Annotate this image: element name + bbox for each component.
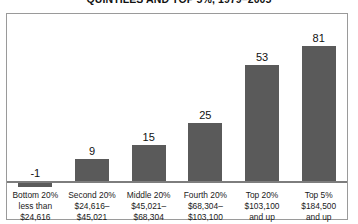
category-label-line2: $24,616– (65, 201, 120, 212)
category-label-line3: $103,100 (178, 212, 233, 223)
category-label-line1: Top 5% (291, 190, 346, 201)
chart-title: QUINTILES AND TOP 5%, 1979–2005 (0, 0, 358, 5)
category-labels: Bottom 20% less than $24,616 Second 20% … (7, 187, 347, 219)
plot-area: -1 9 15 25 53 81 (7, 14, 347, 181)
bar-rect (132, 145, 166, 181)
bar-value-label: 25 (199, 109, 211, 122)
category-label-top-20: Top 20% $103,100 and up (234, 190, 291, 219)
bar-value-label: -1 (30, 167, 40, 180)
bar-rect (302, 46, 336, 181)
category-label-line3: $24,616 (8, 212, 63, 223)
category-label-line1: Second 20% (65, 190, 120, 201)
chart-frame: -1 9 15 25 53 81 (6, 13, 348, 220)
category-label-line3: and up (235, 212, 290, 223)
bar-rect (245, 65, 279, 181)
category-label-line3: and up (291, 212, 346, 223)
category-label-line1: Bottom 20% (8, 190, 63, 201)
category-label-line1: Middle 20% (121, 190, 176, 201)
category-label-line2: less than (8, 201, 63, 212)
axis-baseline (7, 181, 347, 183)
category-label-fourth-20: Fourth 20% $68,304– $103,100 (177, 190, 234, 219)
category-label-line1: Fourth 20% (178, 190, 233, 201)
bar-value-label: 53 (256, 51, 268, 64)
bar-slot-bottom-20: -1 (7, 14, 64, 181)
category-label-bottom-20: Bottom 20% less than $24,616 (7, 190, 64, 219)
category-label-line1: Top 20% (235, 190, 290, 201)
category-label-line2: $45,021– (121, 201, 176, 212)
category-label-line3: $45,021 (65, 212, 120, 223)
category-label-line2: $103,100 (235, 201, 290, 212)
bar-value-label: 81 (313, 32, 325, 45)
category-label-top-5: Top 5% $184,500 and up (290, 190, 347, 219)
category-label-middle-20: Middle 20% $45,021– $68,304 (120, 190, 177, 219)
bar-rect (75, 159, 109, 181)
bar-rect (188, 123, 222, 181)
bar-slot-middle-20: 15 (120, 14, 177, 181)
bars-row: -1 9 15 25 53 81 (7, 14, 347, 181)
category-label-line2: $68,304– (178, 201, 233, 212)
bar-slot-fourth-20: 25 (177, 14, 234, 181)
bar-slot-top-5: 81 (290, 14, 347, 181)
bar-slot-second-20: 9 (64, 14, 121, 181)
category-label-line2: $184,500 (291, 201, 346, 212)
category-label-line3: $68,304 (121, 212, 176, 223)
bar-value-label: 15 (143, 131, 155, 144)
bar-value-label: 9 (89, 145, 95, 158)
bar-slot-top-20: 53 (234, 14, 291, 181)
category-label-second-20: Second 20% $24,616– $45,021 (64, 190, 121, 219)
